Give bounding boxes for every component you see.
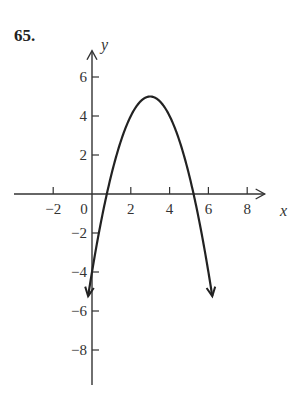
x-tick-label: 6 <box>205 201 213 217</box>
x-tick-label: 2 <box>127 201 135 217</box>
parabola-curve <box>85 97 215 297</box>
x-tick-label: 0 <box>80 201 88 217</box>
x-tick-label: 8 <box>243 201 251 217</box>
x-tick-label: −2 <box>45 201 61 217</box>
y-tick-label: 6 <box>80 69 88 85</box>
ticks: −202468642−2−4−6−8 <box>45 69 251 358</box>
y-tick-label: 2 <box>80 147 88 163</box>
parabola-line <box>88 97 212 297</box>
axes <box>14 51 265 385</box>
y-tick-label: 4 <box>80 108 88 124</box>
x-axis-label: x <box>279 202 287 219</box>
parabola-graph: −202468642−2−4−6−8 x y <box>0 0 308 409</box>
y-axis-label: y <box>99 36 109 54</box>
y-tick-label: −4 <box>71 264 87 280</box>
x-tick-label: 4 <box>166 201 174 217</box>
y-tick-label: −6 <box>71 303 87 319</box>
y-tick-label: −8 <box>71 342 87 358</box>
y-tick-label: −2 <box>71 225 87 241</box>
